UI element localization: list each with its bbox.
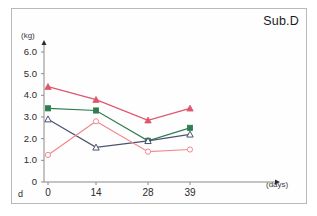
marker-series-green-filled-square	[187, 125, 192, 130]
chart-figure: Sub.D (kg) (days) d 01.02.03.04.05.06.0 …	[0, 0, 317, 216]
marker-series-pink-open-circle	[187, 147, 192, 152]
marker-series-pink-open-circle	[93, 119, 98, 124]
series-layer	[45, 83, 193, 157]
x-tick-label: 28	[136, 187, 160, 198]
marker-series-pink-open-circle	[45, 152, 50, 157]
y-tick-label: 2.0	[13, 133, 37, 144]
marker-series-green-filled-square	[93, 108, 98, 113]
axis-ticks	[41, 52, 190, 185]
y-tick-label: 6.0	[13, 46, 37, 57]
marker-series-red-filled-triangle	[187, 105, 193, 111]
y-tick-label: 5.0	[13, 68, 37, 79]
x-tick-label: 39	[178, 187, 202, 198]
axis-lines	[42, 40, 281, 185]
y-tick-label: 4.0	[13, 89, 37, 100]
line-series-red-filled-triangle	[48, 87, 190, 121]
marker-series-red-filled-triangle	[45, 83, 51, 89]
y-tick-label: 0	[13, 176, 37, 187]
marker-series-navy-open-triangle	[45, 116, 51, 122]
plot-area	[0, 0, 317, 216]
marker-series-green-filled-square	[45, 106, 50, 111]
y-tick-label: 3.0	[13, 111, 37, 122]
x-tick-label: 0	[36, 187, 60, 198]
x-axis-arrow	[275, 180, 280, 185]
line-series-green-filled-square	[48, 108, 190, 140]
y-axis-arrow	[42, 40, 47, 45]
y-tick-label: 1.0	[13, 154, 37, 165]
x-tick-label: 14	[84, 187, 108, 198]
marker-series-pink-open-circle	[145, 149, 150, 154]
